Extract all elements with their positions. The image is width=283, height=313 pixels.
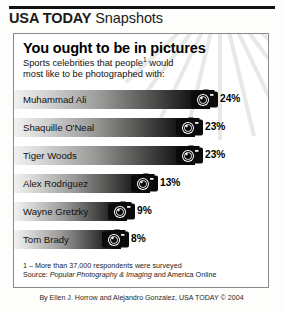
bar-category-label: Tom Brady <box>23 234 69 245</box>
bar-category-label: Muhammad Ali <box>23 94 86 105</box>
bar-value-label: 13% <box>160 177 180 188</box>
usa-today-snapshots-brand: USA TODAY Snapshots <box>9 10 163 26</box>
chart-row: Tom Brady8% <box>14 226 268 254</box>
byline: By Ellen J. Horrow and Alejandro Gonzale… <box>0 294 283 302</box>
snapshot-graphic: USA TODAY Snapshots You ought to be in p… <box>0 0 283 313</box>
camera-icon <box>188 87 218 110</box>
subtitle-line1-end: would <box>147 58 174 68</box>
chart-subtitle: Sports celebrities that people1 would mo… <box>23 58 203 80</box>
chart-row: Shaquille O'Neal23% <box>14 114 268 142</box>
subtitle-line1: Sports celebrities that people <box>23 58 143 68</box>
bar-chart: Muhammad Ali24%Shaquille O'Neal23%Tiger … <box>14 86 268 254</box>
bar-category-label: Tiger Woods <box>23 150 77 161</box>
source-prefix: Source: <box>23 270 50 279</box>
chart-panel: You ought to be in pictures Sports celeb… <box>13 33 269 288</box>
chart-row: Tiger Woods23% <box>14 142 268 170</box>
chart-row: Wayne Gretzky9% <box>14 198 268 226</box>
bar-value-label: 23% <box>205 149 225 160</box>
bar-value-label: 8% <box>131 233 146 244</box>
source-line: Source: Popular Photography & Imaging an… <box>23 270 216 280</box>
camera-icon <box>128 171 158 194</box>
chart-row: Muhammad Ali24% <box>14 86 268 114</box>
bar-value-label: 24% <box>220 93 240 104</box>
footnote-text: 1 – More than 37,000 respondents were su… <box>23 261 216 271</box>
camera-icon <box>99 227 129 250</box>
subtitle-line2: most like to be photographed with: <box>23 69 165 79</box>
camera-icon <box>173 143 203 166</box>
bar-category-label: Alex Rodriguez <box>23 178 88 189</box>
chart-footnotes: 1 – More than 37,000 respondents were su… <box>23 261 216 280</box>
bar-value-label: 9% <box>137 205 152 216</box>
camera-icon <box>105 199 135 222</box>
brand-usatoday: USA TODAY <box>9 10 91 26</box>
bar-category-label: Shaquille O'Neal <box>23 122 94 133</box>
top-rule <box>9 6 275 9</box>
camera-icon <box>173 115 203 138</box>
bar-category-label: Wayne Gretzky <box>23 206 88 217</box>
source-suffix: and America Online <box>152 270 217 279</box>
page-title: You ought to be in pictures <box>23 40 206 56</box>
bar-value-label: 23% <box>205 121 225 132</box>
source-publication: Popular Photography & Imaging <box>50 270 152 279</box>
chart-row: Alex Rodriguez13% <box>14 170 268 198</box>
brand-snapshots: Snapshots <box>91 10 163 26</box>
